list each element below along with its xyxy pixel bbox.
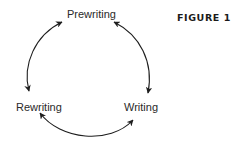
stage-prewriting-label: Prewriting: [67, 9, 116, 20]
figure-number-label: FIGURE 1: [177, 12, 231, 23]
arrow-rewriting-prewriting: [27, 22, 62, 91]
arrow-prewriting-writing: [114, 22, 149, 93]
stage-rewriting-label: Rewriting: [16, 102, 62, 113]
arrow-writing-rewriting: [40, 113, 133, 136]
stage-writing-label: Writing: [124, 102, 158, 113]
